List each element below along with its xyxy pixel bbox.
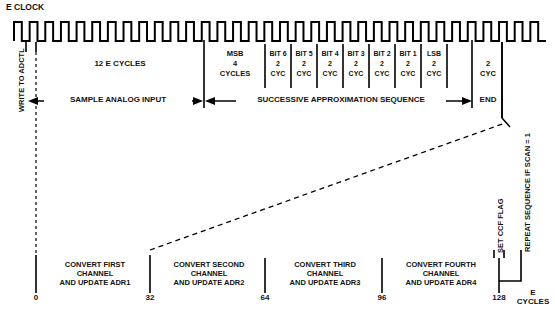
axis-unit-label-line2: CYCLES bbox=[516, 298, 550, 307]
bit-col-bit6-l3: CYC bbox=[266, 70, 290, 78]
set-ccf-flag-label: SET CCF FLAG bbox=[497, 198, 505, 253]
bit-col-bit2-l2: 2 bbox=[370, 60, 394, 68]
bit-col-bit2-l3: CYC bbox=[370, 70, 394, 78]
bit-col-bit4-l2: 2 bbox=[318, 60, 342, 68]
convert-second-l3: AND UPDATE ADR2 bbox=[158, 279, 260, 287]
bit-col-bit1-l2: 2 bbox=[396, 60, 420, 68]
end-label: END bbox=[474, 96, 502, 105]
successive-approximation-label: SUCCESSIVE APPROXIMATION SEQUENCE bbox=[236, 96, 446, 105]
axis-tick-label-64: 64 bbox=[256, 294, 274, 303]
bit-col-lsb-l3: CYC bbox=[422, 70, 446, 78]
axis-tick-label-128: 128 bbox=[487, 294, 511, 303]
bit-col-bit1-l3: CYC bbox=[396, 70, 420, 78]
repeat-sequence-label: REPEAT SEQUENCE IF SCAN = 1 bbox=[524, 133, 532, 252]
bit-col-bit4-l1: BIT 4 bbox=[318, 50, 342, 58]
bit-col-bit1-l1: BIT 1 bbox=[396, 50, 420, 58]
bit-col-bit6-l1: BIT 6 bbox=[266, 50, 290, 58]
bit-col-msb-l3: CYCLES bbox=[209, 70, 261, 78]
bit-col-msb-l1: MSB bbox=[209, 50, 261, 58]
expansion-line-upper bbox=[150, 123, 505, 250]
bit-col-lsb-l1: LSB bbox=[422, 50, 446, 58]
bit-col-lsb-l2: 2 bbox=[422, 60, 446, 68]
bit-col-bit5-l2: 2 bbox=[292, 60, 316, 68]
bit-col-bit3-l3: CYC bbox=[344, 70, 368, 78]
axis-tick-label-32: 32 bbox=[141, 294, 159, 303]
convert-first-l3: AND UPDATE ADR1 bbox=[46, 279, 144, 287]
bit-col-bit6-l2: 2 bbox=[266, 60, 290, 68]
page-title: E CLOCK bbox=[6, 3, 44, 13]
bit-col-bit4-l3: CYC bbox=[318, 70, 342, 78]
e-clock-waveform bbox=[14, 22, 546, 41]
bit-col-bit2-l1: BIT 2 bbox=[370, 50, 394, 58]
bit-col-bit5-l1: BIT 5 bbox=[292, 50, 316, 58]
sample-cycles-label: 12 E CYCLES bbox=[60, 60, 180, 69]
axis-tick-label-0: 0 bbox=[28, 294, 44, 303]
write-to-adctl-label: WRITE TO ADCTL bbox=[18, 48, 26, 112]
convert-third-l3: AND UPDATE ADR3 bbox=[274, 279, 376, 287]
axis-tick-label-96: 96 bbox=[373, 294, 391, 303]
bit-col-bit3-l1: BIT 3 bbox=[344, 50, 368, 58]
bit-col-bit3-l2: 2 bbox=[344, 60, 368, 68]
bit-col-msb-l2: 4 bbox=[209, 60, 261, 68]
ccf-repeat-bracket bbox=[494, 250, 521, 293]
bit-col-end-l2: 2 bbox=[474, 60, 502, 68]
end-bracket bbox=[502, 42, 510, 127]
bit-col-end-l3: CYC bbox=[474, 70, 502, 78]
bit-col-bit5-l3: CYC bbox=[292, 70, 316, 78]
convert-fourth-l3: AND UPDATE ADR4 bbox=[390, 279, 492, 287]
sample-analog-input-label: SAMPLE ANALOG INPUT bbox=[44, 96, 192, 105]
timing-diagram: E CLOCK WRITE TO ADCTL 12 E CYCLES MSB 4… bbox=[0, 0, 555, 312]
